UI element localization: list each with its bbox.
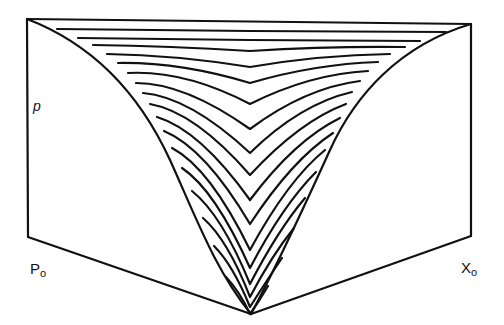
p0-main: P (30, 260, 40, 277)
x0-main: X (461, 259, 471, 276)
p0-label: Po (30, 260, 46, 277)
left-edge (27, 19, 28, 237)
x0-label: Xo (461, 259, 477, 276)
surface-diagram (0, 0, 504, 325)
x0-subscript: o (471, 266, 477, 278)
contour-lines (57, 29, 446, 314)
p-axis-label: p (33, 98, 41, 114)
p0-subscript: o (40, 267, 46, 279)
top-edge (27, 19, 471, 24)
right-boundary-curve (251, 24, 471, 314)
